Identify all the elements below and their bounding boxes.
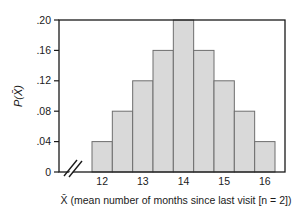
histogram-bar [194, 50, 214, 172]
y-tick-label: 0 [45, 166, 51, 178]
y-axis-ticks: 0.04.08.12.16.20 [36, 14, 59, 178]
y-tick-label: .20 [36, 14, 51, 26]
histogram-bar [112, 111, 132, 172]
y-tick-label: .12 [36, 74, 51, 86]
x-tick-label: 12 [96, 175, 108, 187]
histogram-figure: 0.04.08.12.16.20 1213141516 P(X̄) X̄ (me… [0, 0, 299, 212]
histogram-bar [153, 50, 173, 172]
x-tick-label: 14 [178, 175, 190, 187]
histogram-bar [92, 142, 112, 172]
x-tick-label: 16 [259, 175, 271, 187]
x-tick-label: 13 [137, 175, 149, 187]
y-tick-label: .16 [36, 44, 51, 56]
histogram-bar [234, 111, 254, 172]
histogram-bar [255, 142, 275, 172]
y-tick-label: .08 [36, 105, 51, 117]
sampling-distribution-histogram: 0.04.08.12.16.20 1213141516 P(X̄) X̄ (me… [0, 0, 299, 212]
histogram-bar [133, 81, 153, 172]
x-axis-ticks: 1213141516 [96, 175, 270, 187]
x-axis-title: X̄ (mean number of months since last vis… [61, 194, 292, 206]
histogram-bar [214, 81, 234, 172]
y-tick-label: .04 [36, 135, 51, 147]
histogram-bar [173, 20, 193, 172]
x-tick-label: 15 [218, 175, 230, 187]
y-axis-title: P(X̄) [12, 85, 24, 107]
